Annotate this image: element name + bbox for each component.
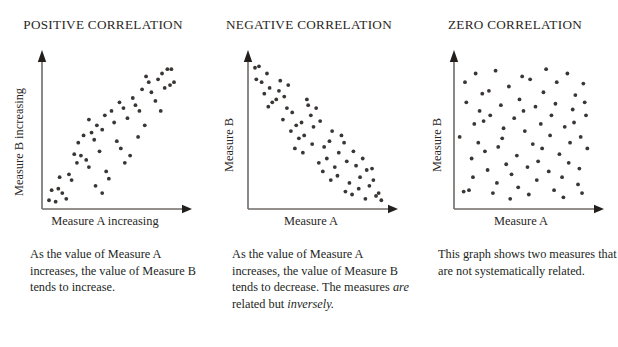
y-axis-label: Measure B increasing [12,88,27,196]
data-point [290,111,294,115]
caption-text: This graph shows two measures that are n… [438,247,617,278]
data-point [282,95,286,99]
panel-caption: As the value of Measure A increases, the… [232,246,412,312]
data-point [144,75,148,79]
data-point [47,198,51,202]
data-point [571,108,575,112]
data-point [350,193,354,197]
data-point [508,197,512,201]
data-point [75,161,79,165]
data-point [358,175,362,179]
data-point [504,162,508,166]
data-point [357,187,361,191]
data-point [584,113,588,117]
data-point [535,178,539,182]
data-point [163,86,167,90]
data-point [342,141,346,145]
data-point [480,92,484,96]
data-point [377,191,381,195]
data-point [260,80,264,84]
data-point [321,170,325,174]
x-axis-arrow [388,205,398,213]
data-point [103,113,107,117]
data-point [95,123,99,127]
data-point [84,158,88,162]
data-point [478,109,482,113]
data-point [54,200,58,204]
data-point [340,134,344,138]
data-point [333,165,337,169]
data-point [128,154,132,158]
data-point [462,190,466,194]
data-point [512,116,516,120]
data-point [329,178,333,182]
data-point [131,96,135,100]
data-point [563,125,567,129]
data-point [50,188,54,192]
caption-text: As the value of Measure A increases, the… [232,247,398,294]
data-point [300,121,304,125]
data-point [365,168,369,172]
data-point [510,172,514,176]
data-point [516,185,520,189]
data-point [165,67,169,71]
data-point [265,72,269,76]
y-axis-arrow [38,50,46,62]
data-point [289,129,293,133]
data-point [322,145,326,149]
data-point [254,77,258,81]
data-point [67,172,71,176]
data-point [348,181,352,185]
panel-caption: This graph shows two measures that are n… [438,246,618,279]
data-point [169,67,173,71]
data-point [76,141,80,145]
panel-negative-correlation: NEGATIVE CORRELATION Measure B Measure A… [206,0,412,347]
data-point [515,154,519,158]
data-point [520,75,524,79]
data-point [558,152,562,156]
data-point [528,77,532,81]
data-points [253,64,383,202]
data-point [474,72,478,76]
data-point [309,113,313,117]
data-point [483,149,487,153]
data-point [354,164,358,168]
data-point [64,197,68,201]
data-point [310,142,314,146]
data-point [488,113,492,117]
data-point [112,121,116,125]
data-point [262,92,266,96]
data-point [328,139,332,143]
data-point [345,159,349,163]
data-point [134,103,138,107]
data-point [285,106,289,110]
data-point [70,178,74,182]
data-point [115,139,119,143]
data-point [562,195,566,199]
x-axis-label: Measure A increasing [10,214,200,229]
data-point [90,131,94,135]
data-point [379,198,383,202]
panel-title: ZERO CORRELATION [412,17,618,33]
y-axis-label: Measure B [222,118,237,172]
data-point [572,121,576,125]
data-point [560,175,564,179]
data-point [147,80,151,84]
data-point [82,134,86,138]
data-point [253,66,257,70]
data-point [58,175,62,179]
data-point [317,161,321,165]
data-point [352,149,356,153]
data-point [79,154,83,158]
data-point [72,152,76,156]
panel-title: POSITIVE CORRELATION [0,17,206,33]
data-point [526,165,530,169]
data-point [150,90,154,94]
data-point [581,82,585,86]
data-point [544,67,548,71]
panel-title: NEGATIVE CORRELATION [206,17,412,33]
panel-positive-correlation: POSITIVE CORRELATION Measure B increasin… [0,0,206,347]
data-point [577,167,581,171]
y-axis-arrow [450,50,458,62]
scatter-plot-positive [0,48,206,230]
